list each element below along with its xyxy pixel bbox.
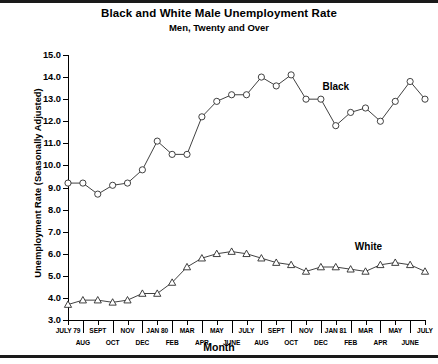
x-tick-label-bottom: OCT [106,339,120,346]
x-tick-label-top: JULY 79 [56,327,81,334]
x-label-separator [113,321,114,333]
x-tick-label-bottom: OCT [284,339,298,346]
y-tick-label: 9.0 [27,183,61,193]
x-tick-label-bottom: FEB [166,339,179,346]
data-point [392,259,399,265]
y-tick-label: 13.0 [27,94,61,104]
data-point [421,268,428,274]
chart-subtitle: Men, Twenty and Over [0,22,438,33]
x-label-separator [321,321,322,333]
data-point [362,105,368,111]
data-point [377,118,383,124]
data-point [228,248,235,254]
y-tick-label: 14.0 [27,72,61,82]
x-tick-label-top: JULY [417,327,433,334]
plot-area: 15.014.013.012.011.010.09.08.07.06.05.04… [68,55,425,320]
y-tick-label: 10.0 [27,160,61,170]
x-tick-mark [366,320,367,325]
x-label-separator [261,321,262,333]
x-tick-mark [98,320,99,325]
x-tick-mark [276,320,277,325]
y-tick-label: 3.0 [27,315,61,325]
y-tick-mark [63,276,68,277]
x-tick-label-bottom: AUG [254,339,268,346]
data-point [273,83,279,89]
data-point [95,191,101,197]
y-tick-mark [63,298,68,299]
x-label-separator [380,321,381,333]
x-tick-label-top: JULY [239,327,255,334]
x-tick-mark [157,320,158,325]
data-point [199,114,205,120]
x-label-separator [291,321,292,333]
y-tick-label: 15.0 [27,50,61,60]
data-point [80,180,86,186]
y-tick-mark [63,121,68,122]
x-label-separator [172,321,173,333]
y-tick-mark [63,99,68,100]
y-tick-label: 7.0 [27,227,61,237]
y-tick-mark [63,210,68,211]
y-tick-label: 4.0 [27,293,61,303]
y-tick-mark [63,143,68,144]
x-tick-label-bottom: DEC [136,339,150,346]
x-tick-mark [128,320,129,325]
x-tick-label-top: NOV [121,327,135,334]
data-point [139,167,145,173]
x-tick-mark [306,320,307,325]
y-tick-label: 8.0 [27,205,61,215]
data-point [65,180,71,186]
x-tick-mark [247,320,248,325]
y-tick-mark [63,55,68,56]
y-tick-label: 11.0 [27,138,61,148]
x-label-separator [83,321,84,333]
data-point [243,92,249,98]
chart-title: Black and White Male Unemployment Rate [0,7,438,19]
series-white [64,248,428,307]
data-point [392,98,398,104]
x-label-separator [202,321,203,333]
y-tick-mark [63,77,68,78]
x-tick-mark [217,320,218,325]
x-label-separator [351,321,352,333]
data-point [318,96,324,102]
y-tick-mark [63,232,68,233]
x-tick-mark [395,320,396,325]
x-tick-label-top: MAR [358,327,373,334]
x-tick-label-top: SEPT [89,327,106,334]
data-point [184,151,190,157]
data-point [169,151,175,157]
x-tick-label-bottom: APR [374,339,388,346]
x-tick-label-bottom: APR [195,339,209,346]
x-axis-label: Month [0,341,438,353]
y-tick-mark [63,165,68,166]
x-label-separator [142,321,143,333]
y-tick-mark [63,254,68,255]
x-tick-label-bottom: FEB [344,339,357,346]
data-point [229,92,235,98]
x-tick-label-bottom: DEC [314,339,328,346]
x-tick-label-bottom: AUG [76,339,90,346]
series-line [68,252,425,305]
x-label-separator [410,321,411,333]
x-tick-mark [336,320,337,325]
x-tick-mark [425,320,426,325]
x-tick-mark [187,320,188,325]
data-point [183,263,190,269]
x-tick-label-top: SEPT [268,327,285,334]
x-label-separator [232,321,233,333]
x-tick-label-top: MAY [388,327,402,334]
data-point [407,78,413,84]
data-point [348,109,354,115]
data-point [258,74,264,80]
y-tick-label: 5.0 [27,271,61,281]
series-label-white: White [355,241,382,252]
data-point [154,138,160,144]
x-tick-label-top: JAN 80 [146,327,168,334]
top-divider [0,0,438,3]
series-label-black: Black [322,80,349,91]
x-tick-label-top: MAR [180,327,195,334]
x-tick-label-top: MAY [210,327,224,334]
data-point [110,182,116,188]
x-tick-mark [68,320,69,325]
